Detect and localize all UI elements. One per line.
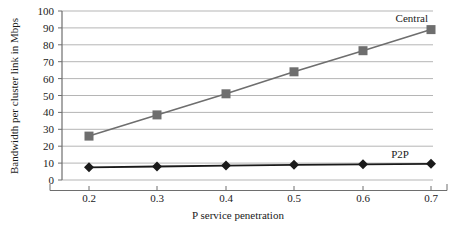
data-point-central-0.2 xyxy=(85,132,94,141)
series-annotation-central: Central xyxy=(396,12,428,24)
y-tick-label-10: 10 xyxy=(43,157,55,169)
chart-background xyxy=(0,0,466,226)
y-tick-label-70: 70 xyxy=(43,56,55,68)
x-tick-label-5: 0.6 xyxy=(356,192,370,204)
x-tick-label-4: 0.5 xyxy=(287,192,301,204)
x-axis-title: P service penetration xyxy=(192,209,284,221)
x-tick-label-2: 0.3 xyxy=(150,192,164,204)
data-point-central-0.3 xyxy=(153,110,162,119)
y-tick-label-20: 20 xyxy=(43,140,55,152)
y-tick-label-80: 80 xyxy=(43,39,55,51)
x-tick-label-1: 0.2 xyxy=(82,192,96,204)
y-tick-label-100: 100 xyxy=(38,5,55,17)
y-tick-label-60: 60 xyxy=(43,73,55,85)
y-axis-title: Bandwidth per cluster link in Mbps xyxy=(8,18,20,174)
y-tick-label-50: 50 xyxy=(43,90,55,102)
y-tick-label-40: 40 xyxy=(43,106,55,118)
x-tick-label-6: 0.7 xyxy=(424,192,438,204)
line-chart: 100 90 80 70 60 50 40 30 20 10 0 Bandwid… xyxy=(0,0,466,226)
y-tick-label-90: 90 xyxy=(43,22,55,34)
x-tick-label-3: 0.4 xyxy=(219,192,233,204)
y-tick-label-0: 0 xyxy=(49,174,55,186)
y-tick-label-30: 30 xyxy=(43,123,55,135)
data-point-central-0.6 xyxy=(359,46,368,55)
chart-figure: 100 90 80 70 60 50 40 30 20 10 0 Bandwid… xyxy=(0,0,466,226)
data-point-central-0.4 xyxy=(222,89,231,98)
data-point-central-0.5 xyxy=(290,67,299,76)
series-annotation-p2p: P2P xyxy=(391,148,409,160)
data-point-central-0.7 xyxy=(427,25,436,34)
